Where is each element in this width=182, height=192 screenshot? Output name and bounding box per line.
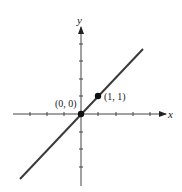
graph: x y (0, 0) (1, 1) xyxy=(0,0,182,192)
point-origin xyxy=(78,111,84,117)
origin-label: (0, 0) xyxy=(55,98,77,110)
y-axis-label: y xyxy=(76,14,82,26)
x-axis-label: x xyxy=(167,108,173,120)
point-one-one xyxy=(95,93,101,99)
point-label: (1, 1) xyxy=(104,91,126,103)
